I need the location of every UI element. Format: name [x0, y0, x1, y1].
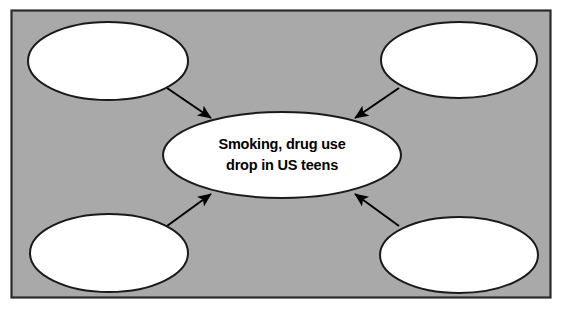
detail-ellipse-top-right[interactable] [381, 22, 537, 98]
center-topic-ellipse[interactable] [163, 112, 401, 198]
diagram-canvas: Smoking, drug use drop in US teens [0, 0, 565, 310]
detail-ellipse-bottom-left[interactable] [30, 214, 188, 292]
concept-map-diagram: Smoking, drug use drop in US teens [0, 0, 565, 310]
center-topic-line-2: drop in US teens [226, 157, 338, 173]
detail-ellipse-bottom-right[interactable] [380, 217, 538, 293]
center-topic-line-1: Smoking, drug use [218, 136, 345, 152]
detail-ellipse-top-left[interactable] [28, 22, 188, 100]
